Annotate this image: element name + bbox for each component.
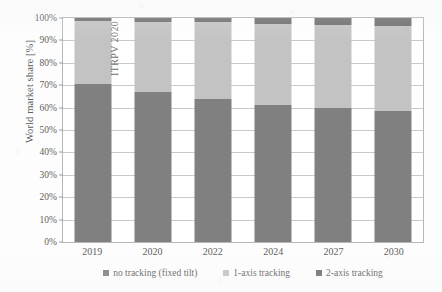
segment-1-axis[interactable] xyxy=(315,25,352,108)
segment-1-axis[interactable] xyxy=(75,21,112,84)
y-tick-label: 40% xyxy=(40,147,57,157)
y-axis-title: World market share [%] xyxy=(24,17,35,167)
y-tick-label: 100% xyxy=(35,13,57,23)
legend-swatch-icon xyxy=(316,270,322,276)
segment-2-axis[interactable] xyxy=(315,18,352,25)
x-tick-label: 2030 xyxy=(364,246,424,257)
segment-no-tracking[interactable] xyxy=(195,99,232,242)
y-tick-mark xyxy=(59,18,63,19)
legend-label: 2-axis tracking xyxy=(326,268,383,278)
bar-slot xyxy=(183,18,243,242)
stacked-bar[interactable] xyxy=(255,18,292,242)
segment-1-axis[interactable] xyxy=(135,22,172,91)
bar-slot xyxy=(243,18,303,242)
y-tick-mark xyxy=(59,130,63,131)
y-tick-label: 60% xyxy=(40,103,57,113)
segment-1-axis[interactable] xyxy=(255,24,292,106)
plot-area: ITRPV 2020 0%10%20%30%40%50%60%70%80%90%… xyxy=(62,17,424,243)
y-tick-label: 50% xyxy=(40,125,57,135)
segment-no-tracking[interactable] xyxy=(75,84,112,242)
chart-figure: World market share [%] ITRPV 2020 0%10%2… xyxy=(0,0,442,292)
legend-label: 1-axis tracking xyxy=(233,268,290,278)
legend-swatch-icon xyxy=(223,270,229,276)
segment-no-tracking[interactable] xyxy=(255,105,292,242)
y-tick-mark xyxy=(59,107,63,108)
stacked-bar[interactable] xyxy=(195,18,232,242)
y-tick-mark xyxy=(59,85,63,86)
bar-slot xyxy=(363,18,423,242)
legend-item[interactable]: 1-axis tracking xyxy=(223,268,290,278)
stacked-bar[interactable] xyxy=(375,18,412,242)
x-axis-tick-labels: 201920202022202420272030 xyxy=(62,246,424,257)
x-tick-label: 2027 xyxy=(303,246,363,257)
x-tick-label: 2020 xyxy=(122,246,182,257)
y-tick-mark xyxy=(59,242,63,243)
legend-item[interactable]: 2-axis tracking xyxy=(316,268,383,278)
segment-2-axis[interactable] xyxy=(375,18,412,26)
bar-slot xyxy=(63,18,123,242)
legend-label: no tracking (fixed tilt) xyxy=(113,268,197,278)
segment-1-axis[interactable] xyxy=(195,22,232,98)
y-tick-mark xyxy=(59,40,63,41)
y-tick-label: 90% xyxy=(40,35,57,45)
segment-no-tracking[interactable] xyxy=(135,92,172,242)
segment-no-tracking[interactable] xyxy=(375,111,412,242)
x-tick-label: 2024 xyxy=(243,246,303,257)
y-tick-mark xyxy=(59,197,63,198)
bar-slot xyxy=(123,18,183,242)
y-tick-label: 10% xyxy=(40,215,57,225)
stacked-bar[interactable] xyxy=(135,18,172,242)
y-tick-mark xyxy=(59,219,63,220)
y-tick-mark xyxy=(59,174,63,175)
y-tick-mark xyxy=(59,152,63,153)
x-tick-label: 2022 xyxy=(183,246,243,257)
stacked-bar[interactable] xyxy=(75,18,112,242)
x-tick-label: 2019 xyxy=(62,246,122,257)
segment-1-axis[interactable] xyxy=(375,26,412,111)
chart-legend: no tracking (fixed tilt)1-axis tracking2… xyxy=(62,268,424,278)
y-tick-label: 80% xyxy=(40,58,57,68)
y-tick-label: 20% xyxy=(40,192,57,202)
y-tick-label: 0% xyxy=(44,237,57,247)
legend-item[interactable]: no tracking (fixed tilt) xyxy=(103,268,197,278)
y-tick-label: 70% xyxy=(40,80,57,90)
bar-group xyxy=(63,18,423,242)
bar-slot xyxy=(303,18,363,242)
stacked-bar[interactable] xyxy=(315,18,352,242)
legend-swatch-icon xyxy=(103,270,109,276)
y-tick-mark xyxy=(59,62,63,63)
y-tick-label: 30% xyxy=(40,170,57,180)
segment-no-tracking[interactable] xyxy=(315,108,352,242)
